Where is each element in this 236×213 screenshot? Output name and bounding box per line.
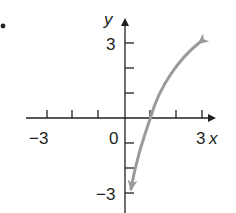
- origin-label: 0: [109, 129, 118, 148]
- graph: y 3 −3 0 3 x −3: [0, 0, 236, 213]
- y-axis-label: y: [103, 10, 114, 29]
- x-tick-label-3: 3: [196, 129, 205, 148]
- curve: [131, 43, 199, 189]
- x-tick-label-neg3: −3: [29, 129, 48, 148]
- x-axis-label: x: [208, 129, 218, 148]
- y-tick-label-3: 3: [106, 35, 115, 54]
- figure-marker: [1, 24, 6, 29]
- y-tick-label-neg3: −3: [96, 185, 115, 204]
